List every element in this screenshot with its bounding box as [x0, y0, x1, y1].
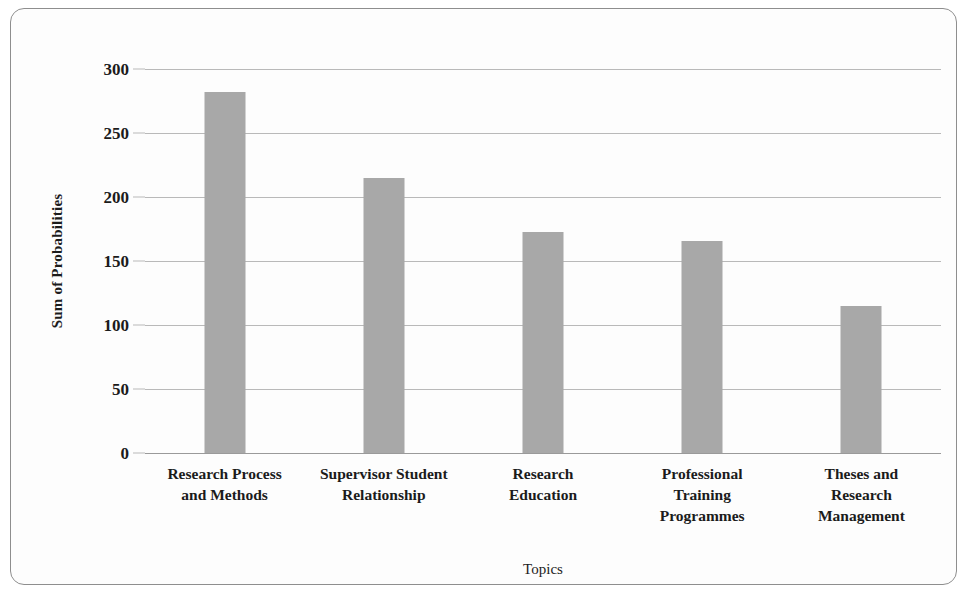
plot-area — [145, 69, 941, 453]
bar[interactable] — [204, 92, 245, 453]
x-axis-category-label-line: Research Process — [145, 464, 304, 485]
y-axis-tick-mark — [133, 133, 145, 134]
x-axis-category-labels: Research Processand MethodsSupervisor St… — [145, 464, 941, 544]
x-axis-category-label-line: Theses and — [782, 464, 941, 485]
bar-slot — [782, 69, 941, 453]
bar[interactable] — [682, 241, 723, 453]
x-axis-category-label-line: and Methods — [145, 485, 304, 506]
bar[interactable] — [841, 306, 882, 453]
bar[interactable] — [363, 178, 404, 453]
bar-slot — [304, 69, 463, 453]
x-axis-category-label: ResearchEducation — [463, 464, 622, 506]
x-axis-baseline — [145, 453, 941, 454]
y-axis-tick-mark — [133, 453, 145, 454]
x-axis-category-label-line: Programmes — [623, 506, 782, 527]
x-axis-category-label-line: Research — [463, 464, 622, 485]
bar[interactable] — [522, 232, 563, 453]
x-axis-category-label: Theses andResearchManagement — [782, 464, 941, 527]
bar-slot — [623, 69, 782, 453]
y-axis-tick-mark — [133, 261, 145, 262]
y-axis-tick-mark — [133, 389, 145, 390]
x-axis-category-label-line: Training — [623, 485, 782, 506]
x-axis-category-label-line: Management — [782, 506, 941, 527]
y-axis-tick-mark — [133, 325, 145, 326]
bar-slot — [463, 69, 622, 453]
x-axis-category-label: ProfessionalTrainingProgrammes — [623, 464, 782, 527]
x-axis-category-label-line: Professional — [623, 464, 782, 485]
x-axis-title: Topics — [145, 561, 941, 578]
x-axis-category-label: Research Processand Methods — [145, 464, 304, 506]
x-axis-category-label-line: Research — [782, 485, 941, 506]
x-axis-category-label-line: Relationship — [304, 485, 463, 506]
figure-frame: Sum of Probabilities 050100150200250300 … — [10, 8, 957, 585]
x-axis-category-label: Supervisor StudentRelationship — [304, 464, 463, 506]
x-axis-category-label-line: Education — [463, 485, 622, 506]
bar-slot — [145, 69, 304, 453]
y-axis-tick-marks — [11, 69, 151, 453]
x-axis-category-label-line: Supervisor Student — [304, 464, 463, 485]
y-axis-tick-mark — [133, 69, 145, 70]
y-axis-tick-mark — [133, 197, 145, 198]
